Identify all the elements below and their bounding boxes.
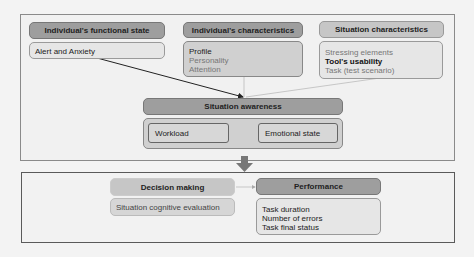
performance-content: Task duration Number of errors Task fina… bbox=[256, 198, 381, 235]
situation-item-stressing: Stressing elements bbox=[325, 48, 437, 57]
functional-state-content: Alert and Anxiety bbox=[29, 42, 165, 59]
performance-item-status: Task final status bbox=[262, 223, 375, 232]
emotional-state-label: Emotional state bbox=[265, 129, 320, 138]
performance-item-duration: Task duration bbox=[262, 205, 375, 214]
situation-awareness-header: Situation awareness bbox=[143, 98, 343, 115]
situation-item-usability: Tool's usability bbox=[325, 57, 437, 66]
situation-item-task: Task (test scenario) bbox=[325, 66, 437, 75]
performance-header: Performance bbox=[256, 178, 381, 195]
decision-making-content: Situation cognitive evaluation bbox=[110, 198, 235, 216]
characteristics-item-attention: Attention bbox=[189, 65, 297, 74]
situation-characteristics-header: Situation characteristics bbox=[319, 21, 444, 38]
characteristics-header: Individual's characteristics bbox=[183, 22, 303, 38]
workload-label: Workload bbox=[155, 129, 189, 138]
functional-state-header: Individual's functional state bbox=[29, 22, 165, 39]
characteristics-item-profile: Profile bbox=[189, 47, 297, 56]
performance-item-errors: Number of errors bbox=[262, 214, 375, 223]
decision-making-item: Situation cognitive evaluation bbox=[116, 203, 229, 212]
situation-characteristics-content: Stressing elements Tool's usability Task… bbox=[319, 41, 443, 79]
characteristics-content: Profile Personality Attention bbox=[183, 41, 303, 77]
characteristics-item-personality: Personality bbox=[189, 56, 297, 65]
functional-state-item: Alert and Anxiety bbox=[35, 47, 159, 56]
workload-box: Workload bbox=[148, 123, 229, 143]
decision-making-header: Decision making bbox=[110, 178, 235, 196]
emotional-state-box: Emotional state bbox=[258, 123, 338, 143]
